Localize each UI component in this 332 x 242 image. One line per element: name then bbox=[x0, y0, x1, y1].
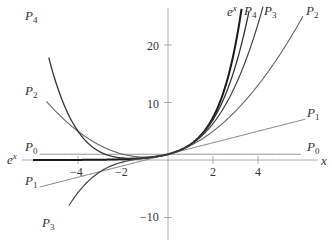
label-p1-left: P1 bbox=[25, 174, 37, 190]
label-base: P bbox=[42, 215, 50, 230]
label-sup: x bbox=[233, 3, 237, 13]
label-ex-left: ex bbox=[7, 152, 17, 166]
label-sub: 1 bbox=[315, 112, 320, 122]
label-sub: 0 bbox=[315, 146, 320, 156]
x-tick-label-4: 4 bbox=[255, 166, 261, 178]
label-p0-left: P0 bbox=[25, 140, 37, 156]
y-tick-label-20: 20 bbox=[147, 40, 159, 52]
x-axis-label: x bbox=[321, 154, 327, 167]
curve-p2 bbox=[47, 16, 304, 157]
label-base: P bbox=[307, 139, 315, 154]
label-p4-left: P4 bbox=[25, 9, 37, 25]
label-sub: 0 bbox=[33, 146, 38, 156]
curve-p3 bbox=[69, 7, 263, 206]
x-tick-label-m2: −2 bbox=[115, 166, 128, 178]
label-sub: 2 bbox=[314, 10, 319, 20]
label-sub: 3 bbox=[50, 222, 55, 232]
label-base: P bbox=[264, 3, 272, 18]
taylor-polynomials-plot bbox=[0, 0, 332, 242]
label-p0-right: P0 bbox=[307, 140, 319, 156]
label-p3-left: P3 bbox=[42, 216, 54, 232]
label-base: P bbox=[25, 83, 33, 98]
label-sub: 1 bbox=[33, 180, 38, 190]
label-p2-left: P2 bbox=[25, 84, 37, 100]
curve-ex bbox=[33, 9, 242, 160]
label-base: P bbox=[244, 3, 252, 18]
label-p2-top: P2 bbox=[306, 4, 318, 20]
label-sup: x bbox=[13, 151, 17, 161]
x-tick-label-2: 2 bbox=[210, 166, 216, 178]
label-ex-top: ex bbox=[227, 4, 237, 18]
label-sub: 4 bbox=[33, 15, 38, 25]
label-base: P bbox=[25, 139, 33, 154]
label-p4-top: P4 bbox=[244, 4, 256, 20]
label-base: P bbox=[25, 8, 33, 23]
axes bbox=[22, 8, 318, 240]
label-sub: 2 bbox=[33, 90, 38, 100]
label-sub: 4 bbox=[252, 10, 257, 20]
label-sub: 3 bbox=[272, 10, 277, 20]
label-base: P bbox=[306, 3, 314, 18]
label-p1-right: P1 bbox=[307, 106, 319, 122]
x-tick-label-m4: −4 bbox=[70, 166, 83, 178]
y-tick-label-m10: −10 bbox=[140, 211, 159, 223]
label-base: P bbox=[307, 105, 315, 120]
label-base: P bbox=[25, 173, 33, 188]
y-tick-label-10: 10 bbox=[147, 98, 159, 110]
curve-p4 bbox=[49, 11, 249, 158]
label-p3-top: P3 bbox=[264, 4, 276, 20]
